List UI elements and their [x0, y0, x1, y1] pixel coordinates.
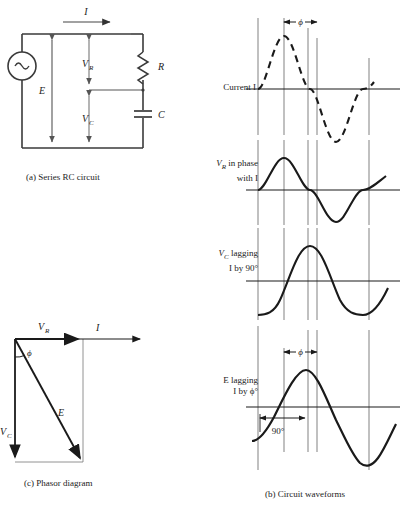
phasor-svg: V R I V C E ϕ [0, 312, 205, 482]
phasor-e [15, 339, 80, 458]
waveform-label-vc-line1: VC lagging [219, 248, 258, 258]
waveforms-svg: ϕ ϕ 90° [200, 0, 409, 490]
vr-label-sub: R [88, 64, 94, 72]
waveform-label-vr-line2: with I [237, 173, 258, 184]
waveform-label-vc-rest: lagging [229, 248, 258, 258]
waveform-label-vr: VR in phase with I [202, 158, 258, 184]
phasor-phi-arc [15, 355, 25, 357]
ninety-degree-label: 90° [272, 426, 285, 436]
phasor-vc-label-sub: C [7, 432, 12, 440]
mid-node-dot [141, 88, 144, 91]
vc-label-sub: C [89, 119, 94, 127]
caption-a-text: (a) Series RC circuit [26, 172, 100, 182]
series-rc-circuit-panel: R C I E V R [0, 0, 205, 195]
emf-label: E [38, 85, 45, 96]
waveform-label-e: E lagging I by ϕ° [202, 375, 258, 397]
waveform-label-vr-rest: in phase [226, 158, 258, 168]
phasor-vc-label: V C [0, 426, 12, 440]
waveform-label-current: Current I [206, 82, 256, 93]
caption-c: (c) Phasor diagram [24, 478, 92, 488]
vc-label: V C [82, 113, 94, 127]
capacitor-symbol [134, 111, 152, 117]
caption-c-text: (c) Phasor diagram [24, 478, 92, 488]
caption-b: (b) Circuit waveforms [265, 489, 345, 499]
phi-label-current: ϕ [298, 17, 303, 27]
phi-label-e: ϕ [298, 347, 303, 357]
resistor-symbol [138, 52, 148, 84]
phasor-i-label: I [95, 322, 100, 333]
caption-b-text: (b) Circuit waveforms [265, 489, 345, 499]
caption-a: (a) Series RC circuit [26, 172, 100, 182]
phasor-e-label: E [57, 407, 64, 418]
vr-label: V R [82, 58, 94, 72]
capacitor-label: C [158, 109, 165, 120]
waveform-guide-lines [258, 18, 369, 470]
waveform-label-vc-line2: I by 90° [229, 263, 258, 274]
waveform-label-e-line1: E lagging [223, 375, 258, 385]
phasor-diagram-panel: V R I V C E ϕ [0, 312, 205, 482]
ac-source-symbol [8, 52, 36, 80]
current-label: I [83, 6, 88, 17]
waveform-label-current-text: Current I [223, 82, 256, 92]
circuit-waveforms-panel: ϕ ϕ 90° [200, 0, 409, 490]
waveform-label-vr-line1: VR in phase [216, 158, 258, 168]
waveform-label-e-line2: I by ϕ° [233, 386, 258, 397]
phasor-vr-label: V R [38, 321, 50, 335]
phasor-vr-label-sub: R [44, 327, 50, 335]
resistor-label: R [157, 61, 164, 72]
waveform-label-vc: VC lagging I by 90° [202, 248, 258, 274]
phasor-phi-label: ϕ [27, 348, 32, 358]
circuit-svg: R C I E V R [0, 0, 205, 195]
